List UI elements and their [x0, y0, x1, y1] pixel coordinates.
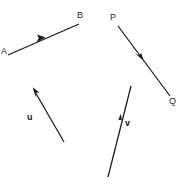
- label-vector-v: v: [125, 119, 130, 128]
- vector-v-arrowhead: [116, 114, 122, 124]
- vector-ab-shaft: [8, 24, 79, 55]
- label-point-q: Q: [169, 97, 176, 106]
- vector-u-arrowhead: [33, 87, 40, 98]
- label-point-b: B: [77, 11, 83, 20]
- vector-figure-canvas: A B P Q u v: [0, 0, 186, 184]
- vector-figure-svg: [0, 0, 186, 184]
- label-point-p: P: [110, 13, 116, 22]
- label-vector-u: u: [27, 113, 33, 122]
- vector-v-shaft: [108, 86, 131, 177]
- vector-pq-shaft: [118, 26, 170, 96]
- vector-u-shaft: [34, 90, 64, 142]
- label-point-a: A: [1, 47, 7, 56]
